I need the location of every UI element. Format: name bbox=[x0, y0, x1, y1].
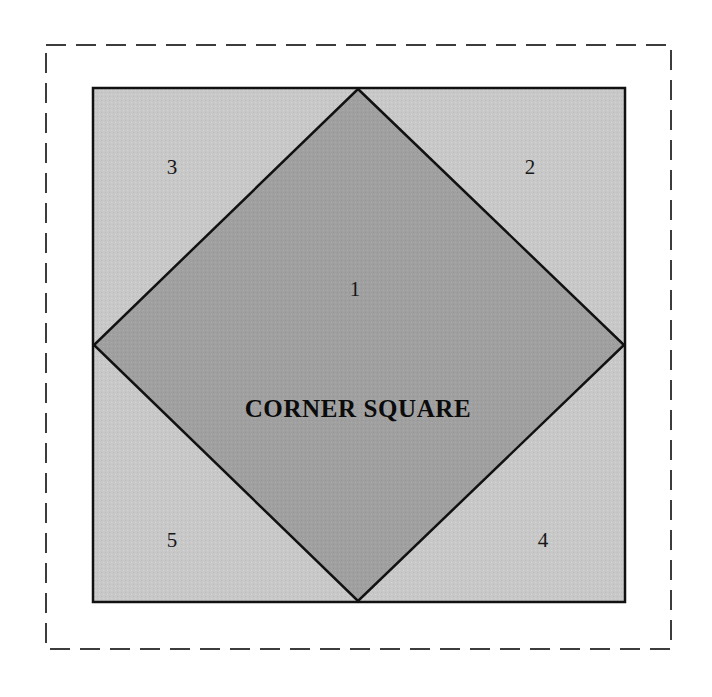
corner-square-block bbox=[91, 86, 627, 604]
figure-canvas: 1 2 3 4 5 CORNER SQUARE bbox=[0, 0, 712, 697]
